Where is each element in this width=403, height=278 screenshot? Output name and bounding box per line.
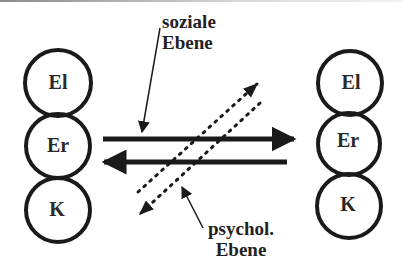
psych-level-label-line2: Ebene <box>208 239 274 260</box>
right-circle-er-label: Er <box>337 129 359 151</box>
social-level-label-line2: Ebene <box>162 32 216 53</box>
right-circle-el-label: El <box>342 71 361 93</box>
label-pointers <box>142 28 203 228</box>
left-circle-er: Er <box>26 114 90 178</box>
left-circle-el: El <box>25 50 91 116</box>
social-pointer-arrow <box>142 28 160 132</box>
right-person-stack: El Er K <box>317 51 382 238</box>
right-circle-el: El <box>318 51 382 115</box>
psych-level-label: psychol. Ebene <box>208 218 274 260</box>
right-circle-k-label: K <box>340 193 356 215</box>
right-circle-k: K <box>317 174 381 238</box>
right-circle-er: Er <box>318 113 380 175</box>
left-circle-k-label: K <box>49 198 65 220</box>
psych-pointer-arrow <box>182 187 203 228</box>
arrow-down-dotted <box>140 103 260 214</box>
left-circle-k: K <box>26 178 90 242</box>
left-person-stack: El Er K <box>25 50 91 242</box>
social-level-label-line1: soziale <box>162 11 216 32</box>
social-level-label: soziale Ebene <box>162 11 216 53</box>
psych-level-label-line1: psychol. <box>208 218 274 239</box>
left-circle-el-label: El <box>49 71 68 93</box>
psych-arrows <box>138 84 260 214</box>
left-circle-er-label: Er <box>47 134 69 156</box>
